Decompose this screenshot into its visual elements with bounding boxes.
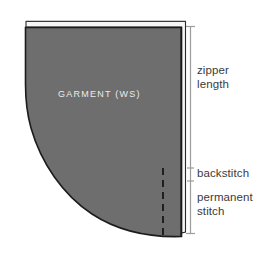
garment-piece xyxy=(26,28,182,237)
sewing-diagram: GARMENT (WS) zipper length backstitch pe… xyxy=(0,0,257,267)
measure-label-permanent-stitch: permanent stitch xyxy=(197,191,253,218)
measure-label-backstitch: backstitch xyxy=(197,167,249,181)
diagram-canvas xyxy=(0,0,257,267)
garment-label: GARMENT (WS) xyxy=(58,89,141,99)
measure-label-zipper-length: zipper length xyxy=(197,64,229,91)
